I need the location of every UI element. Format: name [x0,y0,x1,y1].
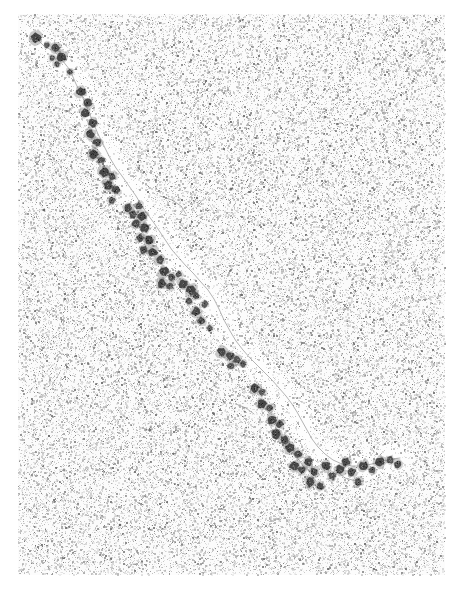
micrograph-image [0,0,469,590]
electron-micrograph-figure [0,0,469,590]
